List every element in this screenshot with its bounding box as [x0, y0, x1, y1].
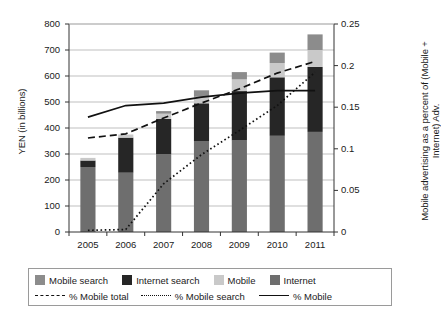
- bar-segment: [308, 132, 323, 232]
- legend-item-label: Internet search: [136, 275, 199, 286]
- y-tick-label-left: 300: [30, 148, 60, 159]
- legend-swatch-icon: [270, 275, 280, 285]
- x-tick-label: 2007: [144, 239, 184, 250]
- y-axis-label-left: YEN (in billions): [16, 57, 27, 187]
- bar-segment: [270, 63, 285, 77]
- y-tick-label-left: 600: [30, 70, 60, 81]
- y-tick-label-left: 100: [30, 200, 60, 211]
- bar-segment: [232, 91, 247, 140]
- y-tick-label-right: 0.2: [341, 60, 375, 71]
- x-tick-label: 2010: [257, 239, 297, 250]
- legend-item-label: % Mobile: [293, 291, 332, 302]
- bar-group: [156, 111, 171, 232]
- bar-group: [80, 158, 95, 232]
- legend-item-label: Internet: [284, 275, 316, 286]
- x-tick-label: 2009: [219, 239, 259, 250]
- legend-item-label: % Mobile search: [175, 291, 245, 302]
- legend-item: Internet: [270, 275, 316, 286]
- chart-legend: Mobile searchInternet searchMobileIntern…: [28, 268, 392, 306]
- bar-segment: [270, 136, 285, 232]
- legend-swatch-icon: [35, 275, 45, 285]
- bar-segment: [80, 167, 95, 232]
- bar-segment: [308, 34, 323, 50]
- bar-segment: [156, 111, 171, 114]
- legend-swatch-icon: [122, 275, 132, 285]
- legend-item: Internet search: [122, 275, 199, 286]
- bar-group: [118, 135, 133, 233]
- y-tick-label-right: 0.15: [341, 101, 375, 112]
- bar-group: [308, 34, 323, 232]
- legend-item: Mobile: [214, 275, 256, 286]
- y-tick-label-left: 400: [30, 122, 60, 133]
- bar-group: [270, 53, 285, 232]
- y-tick-label-right: 0.1: [341, 143, 375, 154]
- y-tick-label-left: 0: [30, 226, 60, 237]
- bar-segment: [232, 140, 247, 232]
- y-tick-label-right: 0.25: [341, 18, 375, 29]
- bar-group: [232, 72, 247, 232]
- bar-segment: [232, 72, 247, 79]
- bar-segment: [270, 53, 285, 63]
- y-tick-label-left: 200: [30, 174, 60, 185]
- y-tick-label-left: 500: [30, 96, 60, 107]
- legend-item: % Mobile total: [35, 291, 129, 302]
- legend-swatch-icon: [214, 275, 224, 285]
- bar-segment: [308, 50, 323, 67]
- bar-segment: [80, 161, 95, 168]
- bar-segment: [270, 77, 285, 136]
- bar-segment: [80, 158, 95, 161]
- bar-segment: [156, 119, 171, 154]
- legend-item-label: % Mobile total: [69, 291, 129, 302]
- bar-segment: [118, 138, 133, 173]
- y-tick-label-right: 0: [341, 226, 375, 237]
- bar-segment: [118, 173, 133, 232]
- y-tick-label-left: 700: [30, 44, 60, 55]
- legend-row-lines: % Mobile total% Mobile search% Mobile: [35, 288, 385, 304]
- y-tick-label-right: 0.05: [341, 184, 375, 195]
- x-tick-label: 2011: [295, 239, 335, 250]
- legend-item-label: Mobile search: [49, 275, 108, 286]
- x-tick-label: 2005: [68, 239, 108, 250]
- legend-item-label: Mobile: [228, 275, 256, 286]
- legend-item: % Mobile search: [141, 291, 245, 302]
- x-tick-label: 2006: [106, 239, 146, 250]
- bar-segment: [194, 103, 209, 141]
- bar-segment: [156, 154, 171, 232]
- bar-group: [194, 90, 209, 232]
- y-axis-label-right: Mobile advertising as a percent of (Mobi…: [419, 31, 441, 231]
- bar-segment: [118, 135, 133, 138]
- bar-segment: [194, 141, 209, 232]
- legend-item: % Mobile: [259, 291, 332, 302]
- legend-row-swatches: Mobile searchInternet searchMobileIntern…: [35, 272, 385, 288]
- y-tick-label-left: 800: [30, 18, 60, 29]
- legend-item: Mobile search: [35, 275, 108, 286]
- x-tick-label: 2008: [182, 239, 222, 250]
